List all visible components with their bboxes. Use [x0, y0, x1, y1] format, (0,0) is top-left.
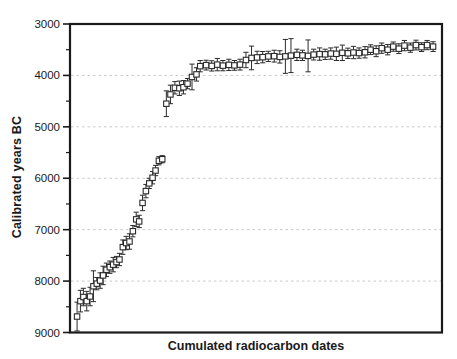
data-point-marker: [385, 47, 390, 52]
data-point-marker: [311, 52, 316, 57]
data-point-marker: [356, 50, 361, 55]
data-point-marker: [74, 314, 79, 319]
data-point-marker: [168, 92, 173, 97]
data-point-marker: [277, 54, 282, 59]
data-point-marker: [164, 101, 169, 106]
data-point-marker: [215, 62, 220, 67]
data-point-marker: [150, 175, 155, 180]
data-point-marker: [283, 54, 288, 59]
data-point-marker: [266, 54, 271, 59]
data-point-marker: [185, 81, 190, 86]
data-point-marker: [130, 229, 135, 234]
data-point-marker: [430, 44, 435, 49]
data-point-marker: [194, 72, 199, 77]
data-point-marker: [328, 51, 333, 56]
data-point-marker: [391, 44, 396, 49]
data-point-marker: [379, 45, 384, 50]
data-point-marker: [368, 47, 373, 52]
data-point-marker: [288, 53, 293, 58]
data-point-marker: [260, 54, 265, 59]
data-point-marker: [413, 42, 418, 47]
data-point-marker: [140, 200, 145, 205]
data-point-marker: [127, 239, 132, 244]
data-point-marker: [373, 49, 378, 54]
data-point-marker: [209, 63, 214, 68]
y-tick-label: 4000: [34, 69, 60, 81]
data-point-marker: [424, 42, 429, 47]
data-point-marker: [254, 55, 259, 60]
y-axis-label: Calibrated years BC: [10, 116, 24, 239]
data-point-marker: [340, 50, 345, 55]
data-point-marker: [345, 51, 350, 56]
error-bars: [74, 39, 435, 331]
data-point-marker: [143, 188, 148, 193]
data-point-marker: [294, 52, 299, 57]
data-point-marker: [220, 63, 225, 68]
data-point-marker: [249, 55, 254, 60]
data-point-marker: [408, 45, 413, 50]
y-axis-ticks: 3000400050006000700080009000: [34, 18, 70, 339]
y-tick-label: 3000: [34, 18, 60, 30]
data-point-marker: [237, 62, 242, 67]
data-point-marker: [198, 63, 203, 68]
data-point-marker: [362, 50, 367, 55]
data-point-marker: [305, 53, 310, 58]
data-point-marker: [334, 51, 339, 56]
y-tick-label: 8000: [34, 275, 60, 287]
data-point-marker: [317, 51, 322, 56]
data-point-marker: [153, 168, 158, 173]
data-point-marker: [272, 53, 277, 58]
data-point-marker: [203, 62, 208, 67]
data-point-marker: [419, 44, 424, 49]
y-tick-label: 7000: [34, 224, 60, 236]
y-tick-label: 5000: [34, 121, 60, 133]
data-point-marker: [232, 63, 237, 68]
data-point-marker: [117, 257, 122, 262]
figure: 3000400050006000700080009000 Calibrated …: [0, 0, 457, 359]
data-point-marker: [87, 294, 92, 299]
data-point-marker: [160, 157, 165, 162]
data-point-marker: [136, 219, 141, 224]
data-point-marker: [147, 181, 152, 186]
data-point-marker: [300, 53, 305, 58]
markers: [74, 42, 435, 319]
gridlines: [71, 75, 441, 281]
y-tick-label: 6000: [34, 172, 60, 184]
data-point-marker: [97, 278, 102, 283]
data-point-marker: [351, 50, 356, 55]
x-axis-label: Cumulated radiocarbon dates: [70, 339, 442, 353]
data-point-marker: [243, 57, 248, 62]
plot-area: 3000400050006000700080009000: [0, 0, 457, 359]
data-point-marker: [226, 62, 231, 67]
y-tick-label: 9000: [34, 327, 60, 339]
data-point-marker: [396, 46, 401, 51]
data-point-marker: [322, 52, 327, 57]
data-point-marker: [402, 43, 407, 48]
data-point-marker: [100, 273, 105, 278]
